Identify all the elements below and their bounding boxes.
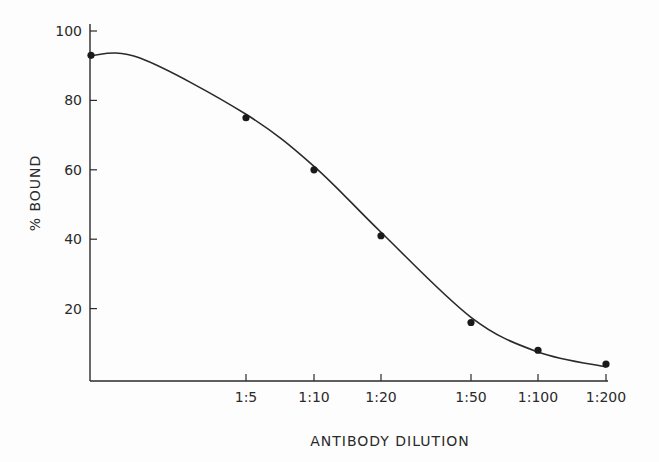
x-tick-label: 1:200 <box>586 389 626 405</box>
x-tick-label: 1:50 <box>455 389 486 405</box>
data-point <box>602 361 609 368</box>
chart: 20406080100 1:51:101:201:501:1001:200 AN… <box>0 0 659 462</box>
x-ticks: 1:51:101:201:501:1001:200 <box>235 374 626 405</box>
x-tick-label: 1:100 <box>518 389 558 405</box>
data-point <box>310 166 317 173</box>
data-point <box>534 347 541 354</box>
y-tick-label: 100 <box>55 23 82 39</box>
x-tick-label: 1:5 <box>235 389 258 405</box>
y-ticks: 20406080100 <box>55 23 97 317</box>
y-tick-label: 40 <box>64 231 82 247</box>
data-point <box>242 114 249 121</box>
data-point <box>87 52 94 59</box>
y-tick-label: 60 <box>64 162 82 178</box>
x-tick-label: 1:10 <box>298 389 329 405</box>
y-tick-label: 20 <box>64 301 82 317</box>
x-axis-title: ANTIBODY DILUTION <box>310 433 470 449</box>
x-tick-label: 1:20 <box>365 389 396 405</box>
data-points <box>87 52 609 368</box>
y-tick-label: 80 <box>64 92 82 108</box>
data-point <box>467 319 474 326</box>
fitted-curve <box>91 53 606 367</box>
axes <box>90 24 608 381</box>
data-point <box>377 232 384 239</box>
y-axis-title: % BOUND <box>27 155 43 232</box>
